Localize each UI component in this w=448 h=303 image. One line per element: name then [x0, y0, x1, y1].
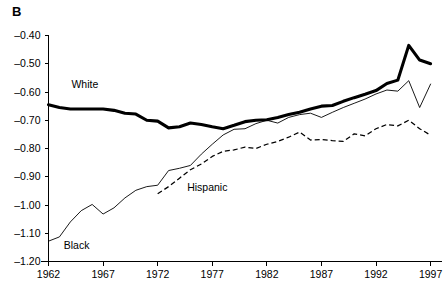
series-line-white	[49, 45, 431, 128]
y-tick-label: –1.20	[14, 255, 40, 267]
x-tick-label: 1997	[419, 268, 443, 280]
y-tick-label: –0.80	[14, 142, 40, 154]
x-tick-label: 1977	[201, 268, 225, 280]
x-axis-tick-labels: 19621967197219771982198719921997	[37, 268, 443, 280]
y-tick-label: –0.50	[14, 57, 40, 69]
y-tick-label: –1.00	[14, 199, 40, 211]
x-tick-label: 1982	[255, 268, 279, 280]
y-axis-tick-labels: –0.40–0.50–0.60–0.70–0.80–0.90–1.00–1.10…	[14, 29, 40, 267]
chart-series	[49, 45, 431, 241]
y-tick-label: –0.90	[14, 170, 40, 182]
y-tick-label: –0.40	[14, 29, 40, 41]
figure-panel-b: B –0.40–0.50–0.60–0.70–0.80–0.90–1.00–1.…	[0, 0, 448, 303]
x-tick-label: 1992	[364, 268, 388, 280]
series-annotations: WhiteBlackHispanic	[64, 78, 228, 251]
x-tick-label: 1987	[310, 268, 334, 280]
x-tick-label: 1972	[146, 268, 170, 280]
series-label-black: Black	[64, 239, 90, 251]
x-tick-label: 1962	[37, 268, 61, 280]
y-tick-label: –0.60	[14, 86, 40, 98]
y-tick-label: –1.10	[14, 227, 40, 239]
x-tick-label: 1967	[91, 268, 115, 280]
y-tick-label: –0.70	[14, 114, 40, 126]
chart-axes	[41, 36, 442, 266]
series-label-hispanic: Hispanic	[187, 181, 227, 193]
line-chart: –0.40–0.50–0.60–0.70–0.80–0.90–1.00–1.10…	[0, 0, 448, 303]
series-label-white: White	[71, 78, 98, 90]
series-line-black	[49, 81, 431, 241]
